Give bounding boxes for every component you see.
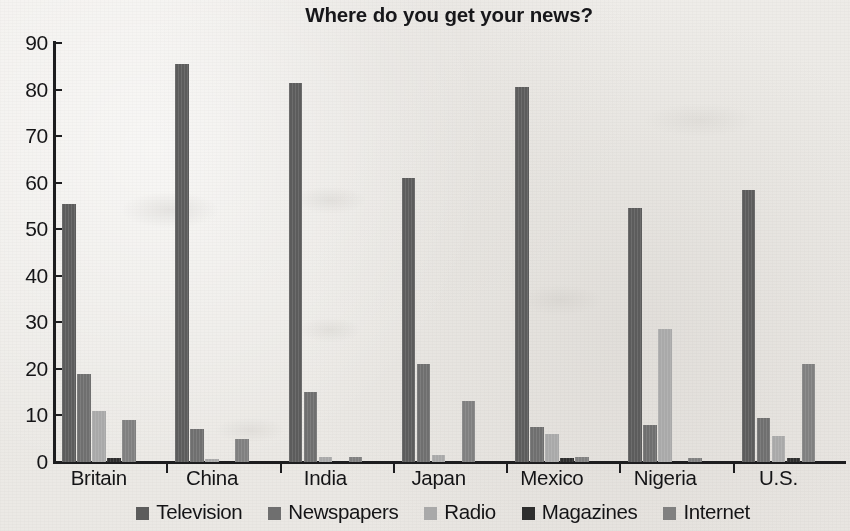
bar-newspapers-mexico bbox=[530, 427, 544, 462]
bar-group bbox=[733, 43, 846, 462]
y-axis-tick-label: 0 bbox=[4, 450, 48, 474]
bar-television-india bbox=[289, 83, 303, 462]
bar-internet-britain bbox=[122, 420, 136, 462]
y-axis-tick-label: 40 bbox=[4, 264, 48, 288]
legend-label-television: Television bbox=[156, 500, 242, 524]
legend-item-newspapers[interactable]: Newspapers bbox=[268, 500, 398, 524]
x-axis-label-britain: Britain bbox=[71, 466, 127, 490]
x-axis-label-mexico: Mexico bbox=[520, 466, 583, 490]
x-axis-labels: BritainChinaIndiaJapanMexicoNigeriaU.S. bbox=[53, 466, 846, 496]
legend-swatch-internet bbox=[663, 507, 676, 520]
legend-item-internet[interactable]: Internet bbox=[663, 500, 749, 524]
bar-internet-mexico bbox=[575, 457, 589, 462]
legend-item-magazines[interactable]: Magazines bbox=[522, 500, 638, 524]
y-axis-tick-label: 80 bbox=[4, 78, 48, 102]
legend-swatch-newspapers bbox=[268, 507, 281, 520]
bar-newspapers-china bbox=[190, 429, 204, 462]
bar-magazines-mexico bbox=[560, 458, 574, 462]
legend-label-internet: Internet bbox=[683, 500, 749, 524]
x-axis-label-japan: Japan bbox=[411, 466, 465, 490]
bar-internet-us bbox=[802, 364, 816, 462]
y-axis-tick-label: 30 bbox=[4, 310, 48, 334]
bar-group bbox=[280, 43, 393, 462]
bar-television-nigeria bbox=[628, 208, 642, 462]
bar-internet-india bbox=[349, 457, 363, 462]
y-axis-tick-label: 70 bbox=[4, 124, 48, 148]
chart-page: Where do you get your news? 010203040506… bbox=[0, 0, 850, 531]
bar-internet-nigeria bbox=[688, 458, 702, 462]
bar-radio-us bbox=[772, 436, 786, 462]
legend-swatch-radio bbox=[424, 507, 437, 520]
bar-magazines-us bbox=[787, 458, 801, 462]
chart-legend: TelevisionNewspapersRadioMagazinesIntern… bbox=[0, 500, 850, 524]
bar-group bbox=[393, 43, 506, 462]
bar-television-japan bbox=[402, 178, 416, 462]
bar-internet-japan bbox=[462, 401, 476, 462]
bar-newspapers-nigeria bbox=[643, 425, 657, 462]
x-axis-label-china: China bbox=[186, 466, 238, 490]
chart-title: Where do you get your news? bbox=[0, 3, 850, 27]
y-axis-labels: 0102030405060708090 bbox=[0, 0, 48, 531]
y-axis-tick-label: 10 bbox=[4, 403, 48, 427]
bar-group bbox=[166, 43, 279, 462]
bar-newspapers-us bbox=[757, 418, 771, 462]
bar-radio-mexico bbox=[545, 434, 559, 462]
legend-swatch-television bbox=[136, 507, 149, 520]
y-axis-tick-label: 50 bbox=[4, 217, 48, 241]
bar-radio-india bbox=[319, 457, 333, 462]
bar-newspapers-japan bbox=[417, 364, 431, 462]
y-axis-tick-label: 60 bbox=[4, 171, 48, 195]
bar-group bbox=[506, 43, 619, 462]
bar-television-china bbox=[175, 64, 189, 462]
x-axis-label-us: U.S. bbox=[759, 466, 798, 490]
bar-radio-nigeria bbox=[658, 329, 672, 462]
bar-television-mexico bbox=[515, 87, 529, 462]
y-axis-tick-label: 90 bbox=[4, 31, 48, 55]
bar-newspapers-india bbox=[304, 392, 318, 462]
x-axis-label-india: India bbox=[304, 466, 347, 490]
legend-swatch-magazines bbox=[522, 507, 535, 520]
bar-newspapers-britain bbox=[77, 374, 91, 462]
bar-television-britain bbox=[62, 204, 76, 462]
bar-magazines-britain bbox=[107, 458, 121, 462]
bar-internet-china bbox=[235, 439, 249, 462]
bar-radio-china bbox=[205, 459, 219, 462]
bar-group bbox=[619, 43, 732, 462]
bar-radio-japan bbox=[432, 455, 446, 462]
x-axis-label-nigeria: Nigeria bbox=[634, 466, 697, 490]
legend-label-magazines: Magazines bbox=[542, 500, 638, 524]
y-axis-tick-label: 20 bbox=[4, 357, 48, 381]
legend-item-radio[interactable]: Radio bbox=[424, 500, 496, 524]
bar-group bbox=[53, 43, 166, 462]
plot-area bbox=[53, 43, 848, 462]
legend-label-radio: Radio bbox=[444, 500, 496, 524]
bar-radio-britain bbox=[92, 411, 106, 462]
bar-television-us bbox=[742, 190, 756, 462]
legend-label-newspapers: Newspapers bbox=[288, 500, 398, 524]
legend-item-television[interactable]: Television bbox=[136, 500, 242, 524]
